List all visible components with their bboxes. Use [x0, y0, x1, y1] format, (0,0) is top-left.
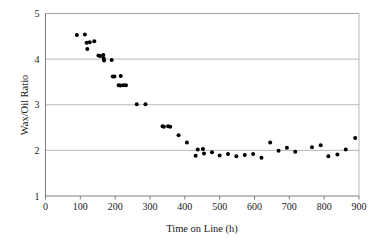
data-point — [162, 125, 166, 129]
data-point — [259, 156, 263, 160]
data-point — [251, 152, 255, 156]
data-point — [185, 141, 189, 145]
data-point — [143, 102, 147, 106]
x-tick-label-0: 0 — [43, 201, 48, 212]
x-tick-label-100: 100 — [73, 201, 88, 212]
x-tick-label-800: 800 — [317, 201, 332, 212]
x-tick-label-900: 900 — [352, 201, 367, 212]
x-tick-label-600: 600 — [247, 201, 262, 212]
data-point — [226, 152, 230, 156]
x-tick-label-400: 400 — [177, 201, 192, 212]
y-axis-title: Wax/Oil Ratio — [19, 75, 30, 136]
data-point — [124, 83, 128, 87]
data-point — [102, 58, 106, 62]
data-point — [310, 145, 314, 149]
chart-figure: 0100200300400500600700800900 12345 Time … — [0, 0, 383, 242]
data-point — [202, 152, 206, 156]
y-tick-label-2: 2 — [35, 145, 40, 156]
data-point — [201, 147, 205, 151]
x-tick-label-200: 200 — [108, 201, 123, 212]
x-axis-title: Time on Line (h) — [166, 223, 238, 235]
data-point — [326, 154, 330, 158]
data-point — [293, 150, 297, 154]
data-point — [268, 141, 272, 145]
data-point — [177, 133, 181, 137]
data-point — [319, 143, 323, 147]
data-point — [218, 153, 222, 157]
data-point — [85, 47, 89, 51]
x-tick-label-300: 300 — [143, 201, 158, 212]
data-point — [88, 40, 92, 44]
gridlines — [46, 14, 360, 151]
y-axis-tick-labels: 12345 — [35, 8, 40, 202]
x-tick-label-700: 700 — [282, 201, 297, 212]
data-point — [110, 58, 114, 62]
data-point — [92, 39, 96, 43]
data-point — [277, 149, 281, 153]
data-point — [194, 154, 198, 158]
data-point — [335, 152, 339, 156]
data-point — [353, 136, 357, 140]
data-point — [234, 154, 238, 158]
y-tick-label-5: 5 — [35, 8, 40, 19]
y-tick-label-4: 4 — [35, 54, 40, 65]
data-point — [210, 150, 214, 154]
data-points — [75, 32, 357, 159]
data-point — [119, 74, 123, 78]
x-tick-label-500: 500 — [212, 201, 227, 212]
data-point — [243, 153, 247, 157]
data-point — [285, 146, 289, 150]
data-point — [196, 147, 200, 151]
scatter-plot: 0100200300400500600700800900 12345 Time … — [0, 0, 383, 242]
y-tick-label-3: 3 — [35, 99, 40, 110]
data-point — [135, 102, 139, 106]
data-point — [112, 74, 116, 78]
data-point — [344, 147, 348, 151]
data-point — [75, 33, 79, 37]
y-tick-label-1: 1 — [35, 191, 40, 202]
data-point — [83, 32, 87, 36]
x-axis-ticks — [46, 196, 360, 200]
x-axis-tick-labels: 0100200300400500600700800900 — [43, 201, 367, 212]
data-point — [168, 125, 172, 129]
